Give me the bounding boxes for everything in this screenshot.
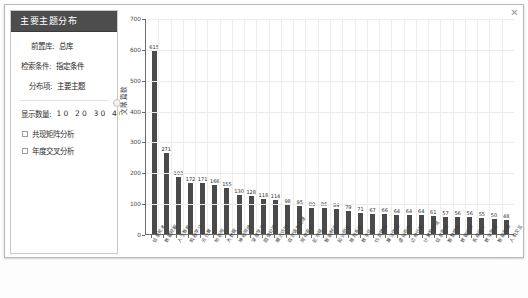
y-tick-500: 500 bbox=[130, 78, 141, 84]
checkbox-cooccurrence[interactable] bbox=[22, 131, 28, 137]
display-count-options[interactable]: 10 20 30 40 bbox=[57, 109, 127, 118]
gridline-v bbox=[489, 19, 490, 234]
bar-value-label: 130 bbox=[234, 188, 244, 194]
bar-column[interactable]: 66 bbox=[379, 19, 391, 234]
y-axis-ticks: 0100200300400500600700 bbox=[124, 19, 144, 235]
checkbox-year-cross[interactable] bbox=[22, 148, 28, 154]
bar-column[interactable]: 84 bbox=[330, 19, 342, 234]
gridline-v bbox=[477, 19, 478, 234]
checkbox-label-cooccurrence: 共现矩阵分析 bbox=[32, 128, 74, 139]
gridline-v bbox=[453, 19, 454, 234]
field-row-condition: 检索条件: 指定条件 bbox=[17, 60, 111, 71]
bar-value-label: 56 bbox=[454, 210, 460, 216]
gridline-v bbox=[502, 19, 503, 234]
panel-body: 前置库: 总库 检索条件: 指定条件 分布项: 主要主题 显示数量: 10 20… bbox=[11, 32, 117, 166]
bar-column[interactable]: 64 bbox=[415, 19, 427, 234]
field-label-database: 前置库: bbox=[31, 40, 55, 51]
bar-column[interactable]: 95 bbox=[294, 19, 306, 234]
bar-value-label: 172 bbox=[186, 176, 196, 182]
field-label-distribution: 分布项: bbox=[29, 80, 53, 91]
bar-column[interactable]: 114 bbox=[269, 19, 281, 234]
bar-column[interactable]: 86 bbox=[318, 19, 330, 234]
gridline-v bbox=[232, 19, 233, 234]
bar-value-label: 98 bbox=[284, 198, 290, 204]
gridline-v bbox=[305, 19, 306, 234]
gridline-v bbox=[367, 19, 368, 234]
y-tick-600: 600 bbox=[130, 47, 141, 53]
panel-divider bbox=[19, 100, 109, 101]
bar-value-label: 50 bbox=[491, 212, 497, 218]
bar-value-label: 128 bbox=[246, 189, 256, 195]
bar-value-label: 64 bbox=[406, 208, 412, 214]
bar-value-label: 67 bbox=[369, 207, 375, 213]
gridline-v bbox=[244, 19, 245, 234]
bar[interactable] bbox=[224, 188, 229, 234]
bar-column[interactable]: 79 bbox=[342, 19, 354, 234]
plot-area: 6152711931721711661551301281181149895898… bbox=[145, 19, 514, 235]
gridline-v bbox=[220, 19, 221, 234]
field-row-database: 前置库: 总库 bbox=[17, 40, 111, 51]
bar-value-label: 64 bbox=[394, 208, 400, 214]
bar-column[interactable]: 71 bbox=[354, 19, 366, 234]
gridline-v bbox=[318, 19, 319, 234]
field-value-distribution[interactable]: 主要主题 bbox=[57, 80, 85, 91]
panel-title: 主要主题分布 bbox=[11, 11, 117, 32]
bar-column[interactable]: 98 bbox=[282, 19, 294, 234]
field-value-database[interactable]: 总库 bbox=[59, 40, 73, 51]
bar-value-label: 171 bbox=[198, 176, 208, 182]
bar-column[interactable]: 67 bbox=[367, 19, 379, 234]
checkbox-label-year-cross: 年度交叉分析 bbox=[32, 145, 74, 156]
main-window: ✕ 主要主题分布 前置库: 总库 检索条件: 指定条件 分布项: 主要主题 bbox=[4, 4, 524, 258]
bar-value-label: 55 bbox=[479, 211, 485, 217]
gridline-v bbox=[465, 19, 466, 234]
gridline-v bbox=[355, 19, 356, 234]
bar-value-label: 166 bbox=[210, 178, 220, 184]
bar-value-label: 114 bbox=[271, 193, 281, 199]
checkbox-row-year-cross[interactable]: 年度交叉分析 bbox=[17, 145, 111, 156]
checkbox-row-cooccurrence[interactable]: 共现矩阵分析 bbox=[17, 128, 111, 139]
gridline-v bbox=[428, 19, 429, 234]
gridline-v bbox=[342, 19, 343, 234]
bar-column[interactable]: 89 bbox=[306, 19, 318, 234]
bar-column[interactable]: 64 bbox=[403, 19, 415, 234]
y-tick-0: 0 bbox=[137, 232, 141, 238]
gridline-v bbox=[379, 19, 380, 234]
gridline-v bbox=[330, 19, 331, 234]
y-tick-200: 200 bbox=[130, 170, 141, 176]
bar[interactable] bbox=[237, 195, 242, 234]
bar-value-label: 66 bbox=[382, 207, 388, 213]
bar[interactable] bbox=[212, 185, 217, 234]
x-axis-labels: 信息技术数据挖掘人工智能机器学习云计算物联网大数据神经网络深度学习图像处理模式识… bbox=[145, 237, 514, 298]
gridline-v bbox=[158, 19, 159, 234]
gridline-v bbox=[391, 19, 392, 234]
bar-value-label: 155 bbox=[222, 181, 232, 187]
gridline-v bbox=[256, 19, 257, 234]
bar-value-label: 71 bbox=[357, 206, 363, 212]
bar-value-label: 48 bbox=[503, 213, 509, 219]
gridline-v bbox=[195, 19, 196, 234]
y-tick-700: 700 bbox=[130, 16, 141, 22]
bar-column[interactable]: 64 bbox=[391, 19, 403, 234]
field-value-condition[interactable]: 指定条件 bbox=[56, 60, 84, 71]
gridline-v bbox=[440, 19, 441, 234]
field-row-distribution: 分布项: 主要主题 bbox=[17, 80, 111, 91]
gridline-v bbox=[281, 19, 282, 234]
bar[interactable] bbox=[164, 153, 169, 234]
bar-chart: 文献篇数 0100200300400500600700 615271193172… bbox=[120, 11, 520, 254]
gridline-v bbox=[183, 19, 184, 234]
bar-value-label: 57 bbox=[442, 210, 448, 216]
close-icon[interactable]: ✕ bbox=[509, 7, 520, 18]
gridline-v bbox=[416, 19, 417, 234]
bar-value-label: 56 bbox=[467, 210, 473, 216]
gridline-v bbox=[171, 19, 172, 234]
display-count-label: 显示数量: bbox=[21, 108, 52, 119]
bar-column[interactable]: 118 bbox=[257, 19, 269, 234]
control-panel: 主要主题分布 前置库: 总库 检索条件: 指定条件 分布项: 主要主题 显示数量… bbox=[10, 10, 118, 254]
bar-value-label: 64 bbox=[418, 208, 424, 214]
gridline-v bbox=[404, 19, 405, 234]
gridline-v bbox=[207, 19, 208, 234]
screen: ✕ 主要主题分布 前置库: 总库 检索条件: 指定条件 分布项: 主要主题 bbox=[0, 0, 528, 298]
bar-value-label: 118 bbox=[259, 192, 269, 198]
y-tick-400: 400 bbox=[130, 109, 141, 115]
gridline-v bbox=[269, 19, 270, 234]
